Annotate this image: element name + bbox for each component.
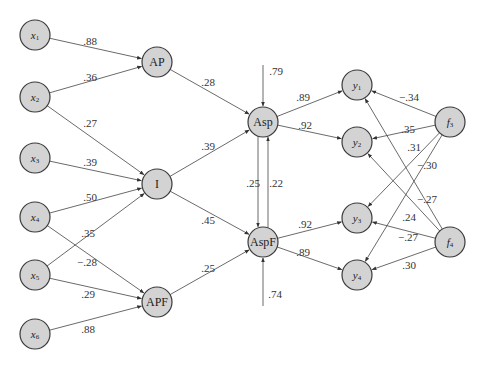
node-x4: x4	[20, 202, 50, 232]
coef-label-I-AspF: .45	[201, 214, 215, 226]
coef-label-x6-APF: .88	[81, 323, 95, 335]
node-label: AspF	[250, 235, 276, 249]
node-x2: x2	[20, 82, 50, 112]
coefficient-labels-layer: .88.36.27.39.50−.28.35.29.88.28.39.45.25…	[77, 35, 437, 335]
node-label: Asp	[253, 115, 272, 129]
coef-label-Asp-AspF: .25	[246, 177, 260, 189]
coef-label-x4-I: .50	[83, 191, 97, 203]
edges-layer	[47, 38, 442, 330]
node-AP: AP	[142, 47, 172, 77]
coef-label-f4-y2: .24	[402, 211, 416, 223]
coef-label-x2-AP: .36	[83, 71, 97, 83]
node-label: I	[155, 177, 159, 191]
coef-label-f3-y4: −.30	[417, 159, 437, 171]
coef-label-f3-y1: −.34	[399, 91, 419, 103]
coef-label-Asp-y1: .89	[296, 91, 310, 103]
coef-label-x4-APF: −.28	[77, 256, 97, 268]
node-label: AP	[149, 55, 165, 69]
coef-label-x5-I: .35	[81, 227, 95, 239]
node-y4: y4	[342, 260, 372, 290]
coef-label-x5-APF: .29	[81, 288, 95, 300]
node-x1: x1	[20, 20, 50, 50]
node-x3: x3	[20, 143, 50, 173]
edge-I-AspF	[170, 191, 249, 234]
edge-x6-APF	[50, 306, 142, 330]
coef-label-APF-AspF: .25	[201, 262, 215, 274]
edge-I-Asp	[170, 130, 249, 176]
coef-label-x1-AP: .88	[83, 35, 97, 47]
path-diagram: .88.36.27.39.50−.28.35.29.88.28.39.45.25…	[0, 0, 484, 367]
coef-label-AspF-y4: .89	[296, 246, 310, 258]
coef-label-I-Asp: .39	[201, 140, 215, 152]
node-label: APF	[146, 295, 168, 309]
disturbance-label-AspF: .74	[268, 288, 282, 300]
coef-label-f4-y3: −.27	[398, 231, 418, 243]
node-y1: y1	[342, 70, 372, 100]
node-AspF: AspF	[248, 227, 278, 257]
coef-label-x2-I: .27	[83, 117, 97, 129]
node-f3: f3	[435, 107, 465, 137]
coef-label-Asp-y2: .92	[298, 119, 312, 131]
coef-label-f4-y1: −.27	[417, 193, 437, 205]
node-Asp: Asp	[248, 107, 278, 137]
node-x6: x6	[20, 319, 50, 349]
disturbance-label-Asp: .79	[269, 65, 283, 77]
node-APF: APF	[142, 287, 172, 317]
coef-label-f3-y2: .35	[401, 123, 415, 135]
node-y2: y2	[342, 127, 372, 157]
coef-label-AP-Asp: .28	[201, 76, 215, 88]
coef-label-AspF-y3: .92	[298, 218, 312, 230]
node-x5: x5	[20, 260, 50, 290]
node-f4: f4	[435, 227, 465, 257]
coef-label-f4-y4: .30	[402, 259, 416, 271]
node-y3: y3	[342, 203, 372, 233]
coef-label-AspF-Asp: .22	[269, 177, 283, 189]
coef-label-f3-y3: .31	[407, 141, 421, 153]
coef-label-x3-I: .39	[83, 156, 97, 168]
node-I: I	[142, 169, 172, 199]
